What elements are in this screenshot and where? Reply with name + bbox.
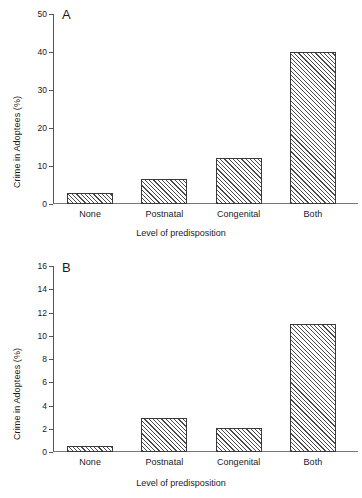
y-tick-mark (49, 406, 53, 407)
y-tick-label: 10 (38, 332, 47, 341)
x-tick-label-postnatal: Postnatal (146, 457, 184, 467)
y-tick-label: 0 (42, 200, 47, 209)
y-tick-mark (49, 266, 53, 267)
panel-b: B Crime in Adoptees (%) Level of predisp… (0, 250, 362, 498)
panel-a-y-axis-line (53, 14, 54, 204)
x-tick-label-none: None (79, 209, 101, 219)
y-tick-label: 40 (38, 48, 47, 57)
x-tick-label-none: None (79, 457, 101, 467)
y-tick-label: 4 (42, 401, 47, 410)
y-tick-mark (49, 90, 53, 91)
y-tick-mark (49, 289, 53, 290)
panel-a: A Crime in Adoptees (%) Level of predisp… (0, 0, 362, 250)
y-tick-mark (49, 128, 53, 129)
y-tick-label: 20 (38, 124, 47, 133)
panel-a-x-axis-label: Level of predisposition (0, 228, 362, 238)
figure-bar-charts: A Crime in Adoptees (%) Level of predisp… (0, 0, 362, 498)
y-tick-mark (49, 359, 53, 360)
y-tick-mark (49, 382, 53, 383)
bar-postnatal (141, 418, 187, 452)
panel-b-y-axis-line (53, 266, 54, 452)
bar-congenital (216, 428, 262, 452)
bar-congenital (216, 158, 262, 204)
x-tick-label-postnatal: Postnatal (146, 209, 184, 219)
panel-b-x-axis-label: Level of predisposition (0, 478, 362, 488)
y-tick-mark (49, 14, 53, 15)
bar-none (67, 446, 113, 452)
bar-both (290, 324, 336, 452)
y-tick-label: 10 (38, 162, 47, 171)
y-tick-mark (49, 166, 53, 167)
y-tick-label: 0 (42, 448, 47, 457)
x-tick-label-congenital: Congenital (217, 457, 260, 467)
y-tick-mark (49, 52, 53, 53)
bar-postnatal (141, 179, 187, 204)
y-tick-mark (49, 313, 53, 314)
y-tick-mark (49, 204, 53, 205)
panel-b-plot-area: 0246810121416 (53, 266, 350, 452)
bar-both (290, 52, 336, 204)
y-tick-label: 12 (38, 308, 47, 317)
x-tick-label-both: Both (304, 209, 323, 219)
y-tick-label: 2 (42, 425, 47, 434)
y-tick-mark (49, 429, 53, 430)
y-tick-label: 14 (38, 285, 47, 294)
y-tick-label: 8 (42, 355, 47, 364)
panel-b-y-axis-label: Crime in Adoptees (%) (12, 348, 22, 440)
panel-a-plot-area: 01020304050 (53, 14, 350, 204)
bar-none (67, 193, 113, 204)
y-tick-mark (49, 336, 53, 337)
x-tick-label-congenital: Congenital (217, 209, 260, 219)
y-tick-mark (49, 452, 53, 453)
y-tick-label: 6 (42, 378, 47, 387)
y-tick-label: 30 (38, 86, 47, 95)
y-tick-label: 50 (38, 10, 47, 19)
y-tick-label: 16 (38, 262, 47, 271)
x-tick-label-both: Both (304, 457, 323, 467)
panel-a-y-axis-label: Crime in Adoptees (%) (12, 96, 22, 188)
